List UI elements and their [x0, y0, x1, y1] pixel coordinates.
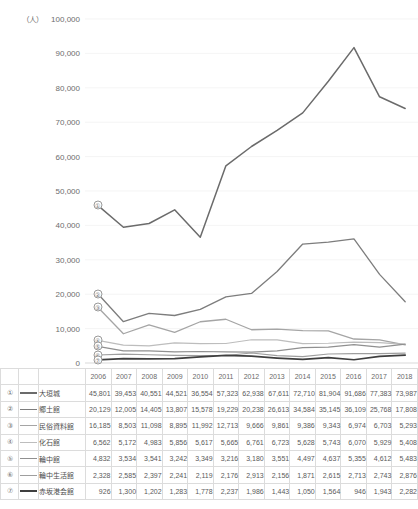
- table-cell-value: 62,938: [239, 385, 265, 401]
- row-index: ①: [1, 385, 19, 401]
- table-cell-value: 2,615: [315, 467, 341, 483]
- table-cell-value: 1,300: [111, 483, 137, 499]
- table-cell-value: 16,185: [86, 418, 112, 434]
- table-header-year: 2015: [315, 369, 341, 385]
- y-axis-tick-label: 70,000: [20, 118, 80, 127]
- table-cell-value: 5,408: [392, 434, 418, 450]
- row-index: ③: [1, 418, 19, 434]
- table-cell-value: 67,611: [264, 385, 290, 401]
- table-cell-value: 6,703: [366, 418, 392, 434]
- table-cell-value: 19,229: [213, 401, 239, 417]
- table-cell-value: 4,983: [137, 434, 163, 450]
- series-line: [98, 239, 405, 322]
- table-cell-value: 44,521: [162, 385, 188, 401]
- table-cell-value: 6,761: [239, 434, 265, 450]
- table-cell-value: 26,613: [264, 401, 290, 417]
- legend-line-icon: [20, 458, 37, 459]
- legend-line-icon: [20, 409, 37, 410]
- table-cell-value: 35,145: [315, 401, 341, 417]
- legend-color-swatch: [19, 401, 39, 417]
- legend-color-swatch: [19, 385, 39, 401]
- table-cell-value: 2,328: [86, 467, 112, 483]
- table-cell-value: 9,343: [315, 418, 341, 434]
- table-cell-value: 3,551: [264, 450, 290, 466]
- table-cell-value: 3,541: [137, 450, 163, 466]
- chart-svg: [85, 0, 418, 378]
- y-axis-tick-label: 40,000: [20, 221, 80, 230]
- table-cell-value: 2,876: [392, 467, 418, 483]
- header-name-spacer: [39, 369, 86, 385]
- legend-color-swatch: [19, 483, 39, 499]
- table-cell-value: 15,578: [188, 401, 214, 417]
- y-axis: 100,00090,00080,00070,00060,00050,00040,…: [18, 0, 80, 378]
- table-row: ⑦赤坂港会館9261,3001,2021,2831,7782,2371,9861…: [1, 483, 418, 499]
- table-cell-value: 5,483: [392, 450, 418, 466]
- y-axis-tick-label: 60,000: [20, 152, 80, 161]
- table-cell-value: 20,238: [239, 401, 265, 417]
- table-cell-value: 40,551: [137, 385, 163, 401]
- table-cell-value: 2,913: [239, 467, 265, 483]
- series-line: [98, 48, 405, 238]
- table-header-year: 2007: [111, 369, 137, 385]
- table-row: ③民俗資料館16,1858,50311,0988,89511,99212,713…: [1, 418, 418, 434]
- table-cell-value: 77,383: [366, 385, 392, 401]
- table-cell-value: 3,349: [188, 450, 214, 466]
- y-axis-tick-label: 80,000: [20, 83, 80, 92]
- table-cell-value: 2,237: [213, 483, 239, 499]
- table-cell-value: 57,323: [213, 385, 239, 401]
- table-cell-value: 2,743: [366, 467, 392, 483]
- table-cell-value: 73,987: [392, 385, 418, 401]
- table-cell-value: 11,992: [188, 418, 214, 434]
- y-axis-tick-label: 100,000: [20, 15, 80, 24]
- table-cell-value: 9,861: [264, 418, 290, 434]
- table-cell-value: 2,119: [188, 467, 214, 483]
- row-index: ⑦: [1, 483, 19, 499]
- table-cell-value: 1,050: [290, 483, 316, 499]
- series-line: [98, 355, 405, 360]
- table-cell-value: 1,986: [239, 483, 265, 499]
- row-index: ⑥: [1, 467, 19, 483]
- legend-color-swatch: [19, 467, 39, 483]
- table-cell-value: 12,005: [111, 401, 137, 417]
- table-cell-value: 6,974: [341, 418, 367, 434]
- row-index: ④: [1, 434, 19, 450]
- table-row: ②郷土館20,12912,00514,40513,80715,57819,229…: [1, 401, 418, 417]
- gridlines: [85, 19, 418, 363]
- table-cell-value: 12,713: [213, 418, 239, 434]
- y-axis-tick-label: 10,000: [20, 324, 80, 333]
- table-header-row: 2006200720082009201020112012201320142015…: [1, 369, 418, 385]
- table-body: ①大垣城45,80139,45340,55144,52136,55457,323…: [1, 385, 418, 500]
- table-cell-value: 34,584: [290, 401, 316, 417]
- table-cell-value: 11,098: [137, 418, 163, 434]
- table-header-year: 2016: [341, 369, 367, 385]
- series-name: 赤坂港会館: [39, 483, 86, 499]
- table-cell-value: 17,808: [392, 401, 418, 417]
- table-cell-value: 72,710: [290, 385, 316, 401]
- table-cell-value: 2,397: [137, 467, 163, 483]
- table-cell-value: 6,070: [341, 434, 367, 450]
- series-name: 民俗資料館: [39, 418, 86, 434]
- table-cell-value: 4,612: [366, 450, 392, 466]
- table-cell-value: 5,628: [290, 434, 316, 450]
- legend-line-icon: [20, 442, 37, 443]
- table-cell-value: 3,180: [239, 450, 265, 466]
- table-cell-value: 3,216: [213, 450, 239, 466]
- table-cell-value: 5,929: [366, 434, 392, 450]
- y-axis-tick-label: 50,000: [20, 187, 80, 196]
- data-table: 2006200720082009201020112012201320142015…: [0, 368, 418, 500]
- table-cell-value: 3,242: [162, 450, 188, 466]
- row-index: ⑤: [1, 450, 19, 466]
- table-cell-value: 5,293: [392, 418, 418, 434]
- table-cell-value: 4,637: [315, 450, 341, 466]
- plot-area: ①②③④⑤⑥⑦: [85, 0, 418, 378]
- table-cell-value: 14,405: [137, 401, 163, 417]
- table-cell-value: 5,172: [111, 434, 137, 450]
- series-index-marker: ①: [93, 201, 102, 210]
- table-cell-value: 1,283: [162, 483, 188, 499]
- table-header-year: 2011: [213, 369, 239, 385]
- series-name: 化石館: [39, 434, 86, 450]
- table-header: 2006200720082009201020112012201320142015…: [1, 369, 418, 385]
- table-cell-value: 1,443: [264, 483, 290, 499]
- table-row: ⑤輪中館4,8323,5343,5413,2423,3493,2163,1803…: [1, 450, 418, 466]
- table-cell-value: 926: [86, 483, 112, 499]
